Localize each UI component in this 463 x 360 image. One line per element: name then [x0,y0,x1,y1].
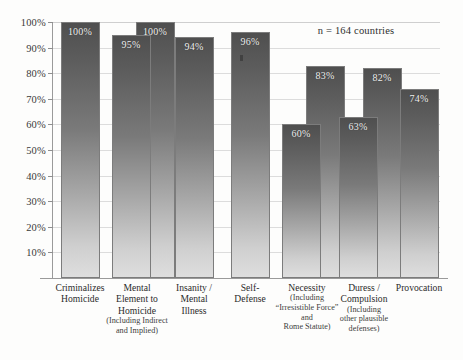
y-axis-tick-label: 30% [0,196,46,207]
bar-value-label: 63% [340,121,377,132]
y-axis-tick-label: 10% [0,247,46,258]
x-axis-category-label: Provocation [379,282,459,293]
scan-artifact [240,55,243,61]
y-axis-tick-mark [48,22,53,23]
y-axis-tick-label: 70% [0,93,46,104]
y-axis-tick-mark [48,252,53,253]
sample-size-annotation: n = 164 countries [300,25,412,36]
gridline [53,22,440,23]
y-axis-tick-label: 20% [0,221,46,232]
bar-chart: 100%90%80%70%60%50%40%30%20%10% 100%95%1… [0,0,463,360]
y-axis-tick-mark [48,48,53,49]
bar: 63% [339,117,378,278]
y-axis-tick-label: 60% [0,119,46,130]
x-axis-category-labels: CriminalizesHomicideMentalElement toHomi… [40,282,448,356]
bar-value-label: 94% [176,41,213,52]
y-axis-tick-mark [48,227,53,228]
bar: 95% [112,35,151,278]
bar: 94% [175,37,214,278]
bar: 74% [400,89,439,278]
bar-value-label: 74% [401,93,438,104]
y-axis-tick-label: 90% [0,42,46,53]
y-axis-tick-mark [48,124,53,125]
y-axis-tick-mark [48,99,53,100]
bar: 100% [61,22,100,278]
y-axis-tick-label: 50% [0,145,46,156]
x-axis-line [40,278,448,279]
y-axis-tick-mark [48,150,53,151]
y-axis-tick-mark [48,201,53,202]
bar: 60% [282,124,321,278]
y-axis-tick-label: 80% [0,68,46,79]
bar-value-label: 82% [364,72,401,83]
bar-value-label: 95% [113,39,150,50]
y-axis-tick-label: 40% [0,170,46,181]
bar-value-label: 100% [62,26,99,37]
y-axis-tick-label: 100% [0,17,46,28]
bar-value-label: 60% [283,128,320,139]
bar-value-label: 83% [307,70,344,81]
y-axis-tick-mark [48,73,53,74]
bar: 96% [231,32,270,278]
bar-value-label: 96% [232,36,269,47]
y-axis-tick-mark [48,176,53,177]
